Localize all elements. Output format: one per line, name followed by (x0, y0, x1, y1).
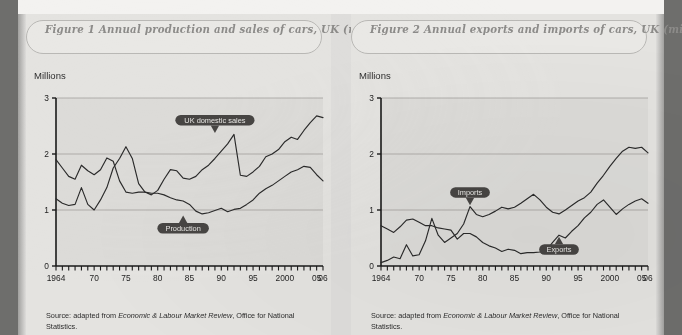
scan-edge-shadow-left (0, 0, 18, 335)
x-tick-label-75: 75 (446, 273, 456, 283)
x-tick-label-90: 90 (542, 273, 552, 283)
x-tick-label-2000: 2000 (276, 273, 295, 283)
figure-1-panel: Figure 1 Annual production and sales of … (26, 14, 331, 335)
x-tick-label-70: 70 (414, 273, 424, 283)
callout-label: UK domestic sales (184, 116, 246, 125)
x-tick-label-2000: 2000 (601, 273, 620, 283)
x-tick-label-70: 70 (89, 273, 99, 283)
x-tick-label-90: 90 (217, 273, 227, 283)
y-tick-label-1: 1 (369, 205, 374, 215)
figure-1-source-publication: Economic & Labour Market Review (118, 311, 232, 320)
callout-label: Production (165, 224, 200, 233)
x-tick-label-1964: 1964 (47, 273, 66, 283)
figure-1-source: Source: adapted from Economic & Labour M… (46, 311, 326, 332)
callout-label: Exports (546, 245, 571, 254)
y-tick-label-2: 2 (44, 149, 49, 159)
y-tick-label-3: 3 (44, 93, 49, 103)
x-tick-label-80: 80 (478, 273, 488, 283)
x-tick-label-95: 95 (573, 273, 583, 283)
x-tick-label-95: 95 (248, 273, 258, 283)
callout-label: Imports (458, 188, 483, 197)
figure-2-chart-svg: 0123196470758085909520000506ImportsExpor… (351, 84, 656, 299)
x-tick-label-06: 06 (318, 273, 328, 283)
figure-2-title: Figure 2 Annual exports and imports of c… (370, 23, 682, 35)
x-tick-label-06: 06 (643, 273, 653, 283)
x-tick-label-1964: 1964 (372, 273, 391, 283)
page-top-margin (18, 0, 664, 14)
plot-background (381, 98, 648, 266)
figure-2-y-axis-unit: Millions (359, 70, 391, 81)
figure-1-chart-svg: 0123196470758085909520000506UK domestic … (26, 84, 331, 299)
x-tick-label-80: 80 (153, 273, 163, 283)
figure-2-source-publication: Economic & Labour Market Review (443, 311, 557, 320)
scan-edge-shadow-right (664, 0, 682, 335)
y-tick-label-0: 0 (44, 261, 49, 271)
y-tick-label-0: 0 (369, 261, 374, 271)
y-tick-label-2: 2 (369, 149, 374, 159)
figure-1-plot: 0123196470758085909520000506UK domestic … (26, 84, 331, 299)
figure-2-source-prefix: Source: adapted from (371, 311, 443, 320)
page-root: Figure 1 Annual production and sales of … (0, 0, 682, 335)
figure-1-y-axis-unit: Millions (34, 70, 66, 81)
y-tick-label-1: 1 (44, 205, 49, 215)
figure-1-title: Figure 1 Annual production and sales of … (45, 23, 401, 35)
figure-2-plot: 0123196470758085909520000506ImportsExpor… (351, 84, 656, 299)
figure-2-panel: Figure 2 Annual exports and imports of c… (351, 14, 656, 335)
x-tick-label-85: 85 (510, 273, 520, 283)
x-tick-label-75: 75 (121, 273, 131, 283)
y-tick-label-3: 3 (369, 93, 374, 103)
figure-1-source-prefix: Source: adapted from (46, 311, 118, 320)
figure-2-source: Source: adapted from Economic & Labour M… (371, 311, 651, 332)
x-tick-label-85: 85 (185, 273, 195, 283)
